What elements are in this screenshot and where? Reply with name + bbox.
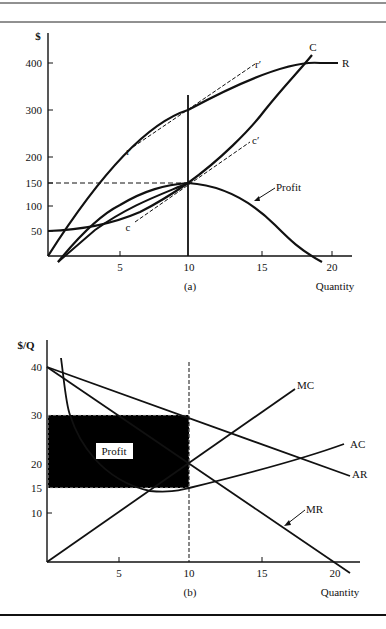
profit-label: Profit	[276, 181, 301, 193]
panel-a-x-title: Quantity	[316, 280, 355, 292]
tangent-c-prime-label: c′	[252, 134, 259, 146]
y-tick-label: 200	[26, 151, 43, 163]
x-tick-label: 15	[257, 261, 269, 273]
mr-label: MR	[306, 503, 324, 515]
panel-b: Profit $/Q 40 30 20 15 10 5 10 15 20 (b)…	[17, 339, 368, 599]
panel-a-y-title: $	[35, 30, 41, 42]
panel-a-label: (a)	[184, 280, 197, 293]
panel-a-x-ticks: 5 10 15 20	[117, 251, 338, 273]
panel-a-y-ticks: 400 300 200 150 100 50	[26, 57, 54, 237]
y-tick-label: 150	[26, 177, 43, 189]
x-tick-label: 15	[257, 567, 269, 579]
x-tick-label: 20	[327, 261, 339, 273]
y-tick-label: 100	[26, 200, 43, 212]
profit-curve	[58, 183, 322, 262]
x-tick-label: 10	[184, 567, 196, 579]
revenue-label: R	[342, 57, 350, 69]
y-tick-label: 300	[26, 104, 43, 116]
y-tick-label: 50	[31, 225, 43, 237]
y-tick-label: 30	[31, 409, 43, 421]
panel-b-label: (b)	[184, 586, 197, 599]
mc-label: MC	[297, 379, 314, 391]
ar-label: AR	[352, 468, 368, 480]
tangent-r-label: r	[126, 145, 130, 157]
x-tick-label: 5	[116, 567, 122, 579]
panel-b-x-ticks: 5 10 15 20	[116, 557, 341, 579]
ac-label: AC	[350, 438, 365, 450]
y-tick-label: 20	[31, 458, 43, 470]
x-tick-label: 10	[184, 261, 196, 273]
profit-pointer-arrowhead	[254, 196, 260, 201]
tangent-r-prime-label: r′	[255, 58, 261, 70]
tangent-c-label: c	[126, 221, 131, 233]
y-tick-label: 15	[31, 482, 43, 494]
cost-label: C	[309, 41, 316, 53]
x-tick-label: 5	[117, 261, 123, 273]
mr-pointer-arrowhead	[284, 520, 291, 526]
panel-b-y-title: $/Q	[17, 339, 35, 351]
revenue-tangent	[133, 64, 255, 147]
y-tick-label: 400	[26, 57, 43, 69]
cost-curve	[48, 55, 312, 231]
profit-box-label: Profit	[101, 445, 126, 457]
x-tick-label: 20	[330, 567, 342, 579]
panel-b-x-title: Quantity	[321, 586, 360, 598]
y-tick-label: 10	[31, 507, 43, 519]
y-tick-label: 40	[31, 361, 43, 373]
figure-canvas: $ 400 300 200 150 100 50 5 10 15 20 (a)	[0, 0, 386, 629]
cost-tangent	[135, 142, 250, 222]
panel-a: $ 400 300 200 150 100 50 5 10 15 20 (a)	[26, 30, 355, 293]
